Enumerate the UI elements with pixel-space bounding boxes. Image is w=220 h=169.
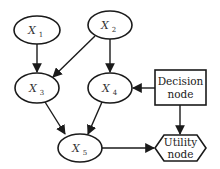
node-x5: X 5 [58,134,102,162]
svg-text:1: 1 [39,31,43,39]
decision-node-line2: node [167,88,193,100]
node-x1-label: X [27,24,37,37]
node-x2: X 2 [88,11,132,39]
svg-text:3: 3 [40,89,44,97]
svg-text:X: X [101,82,111,95]
svg-text:X: X [100,19,110,32]
node-x4: X 4 [88,73,132,103]
utility-node-line1: Utility [164,136,197,148]
influence-diagram: X 1 X 2 X 3 X 4 X 5 Decision node Utilit… [0,0,220,169]
node-x2-subscript: 2 [112,26,116,34]
node-x3-subscript: 3 [40,89,44,97]
utility-node-line2: node [167,148,193,160]
svg-text:X: X [71,142,81,155]
svg-text:X: X [28,82,38,95]
utility-node: Utility node [155,135,206,161]
node-x1: X 1 [14,16,60,44]
node-x4-label: X [101,82,111,95]
node-x5-label: X [71,142,81,155]
node-x5-subscript: 5 [83,149,87,157]
node-x3-label: X [28,82,38,95]
edge-x2-x3 [53,36,95,77]
svg-text:5: 5 [83,149,87,157]
edge-x3-x5 [45,102,65,134]
node-x1-subscript: 1 [39,31,43,39]
decision-node: Decision node [155,70,206,105]
svg-text:4: 4 [113,89,118,97]
node-x4-subscript: 4 [113,89,118,97]
svg-text:X: X [27,24,37,37]
svg-text:2: 2 [112,26,116,34]
node-x2-label: X [100,19,110,32]
edge-x4-x5 [88,102,102,134]
node-x3: X 3 [15,73,59,103]
decision-node-line1: Decision [158,75,204,87]
